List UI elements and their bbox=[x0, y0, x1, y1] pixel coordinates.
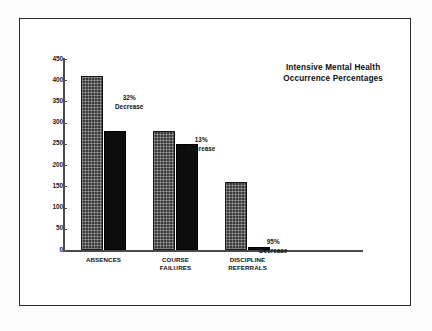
category-label: COURSEFAILURES bbox=[139, 256, 212, 272]
plot-area: 050100150200250300350400450 ABSENCESCOUR… bbox=[19, 18, 411, 306]
bar-group bbox=[225, 58, 270, 250]
y-axis-tick bbox=[63, 80, 67, 81]
y-axis-tick-label: 0 bbox=[29, 247, 63, 254]
category-label: ABSENCES bbox=[67, 256, 140, 264]
annotation-percent: 13% bbox=[187, 136, 215, 145]
y-axis-tick bbox=[63, 101, 67, 102]
annotation-percent: 95% bbox=[259, 238, 287, 247]
decrease-annotation: 32%Decrease bbox=[115, 94, 143, 111]
category-label-line: REFERRALS bbox=[211, 264, 284, 272]
y-axis-tick bbox=[63, 186, 67, 187]
chart-page: 050100150200250300350400450 ABSENCESCOUR… bbox=[0, 0, 432, 331]
category-label: DISCIPLINEREFERRALS bbox=[211, 256, 284, 272]
y-axis-tick bbox=[63, 144, 67, 145]
category-label-line: DISCIPLINE bbox=[211, 256, 284, 264]
bar-group bbox=[153, 58, 198, 250]
y-axis-tick bbox=[63, 123, 67, 124]
y-axis-tick-label: 450 bbox=[29, 56, 63, 63]
decrease-annotation: 13%Decrease bbox=[187, 136, 215, 153]
y-axis-tick-label: 400 bbox=[29, 77, 63, 84]
y-axis-tick-label: 150 bbox=[29, 183, 63, 190]
y-axis-tick-label: 200 bbox=[29, 162, 63, 169]
annotation-label: Decrease bbox=[187, 145, 215, 154]
y-axis-tick-label: 350 bbox=[29, 98, 63, 105]
bar-after bbox=[176, 144, 198, 250]
y-axis-tick-label: 50 bbox=[29, 225, 63, 232]
decrease-annotation: 95%Decrease bbox=[259, 238, 287, 255]
y-axis-tick-label: 300 bbox=[29, 119, 63, 126]
chart-title-line-1: Intensive Mental Health bbox=[283, 62, 383, 73]
chart-title-line-2: Occurrence Percentages bbox=[283, 73, 383, 84]
y-axis-tick bbox=[63, 165, 67, 166]
y-axis-line bbox=[63, 58, 65, 251]
y-axis-tick bbox=[63, 229, 67, 230]
bar-after bbox=[104, 131, 126, 250]
annotation-label: Decrease bbox=[259, 247, 287, 256]
y-axis-tick bbox=[63, 59, 67, 60]
bar-chart: 050100150200250300350400450 ABSENCESCOUR… bbox=[19, 18, 411, 306]
category-label-line: FAILURES bbox=[139, 264, 212, 272]
y-axis-tick bbox=[63, 208, 67, 209]
y-axis-tick-label: 100 bbox=[29, 204, 63, 211]
bar-before bbox=[81, 76, 103, 250]
annotation-percent: 32% bbox=[115, 94, 143, 103]
bar-group bbox=[81, 58, 126, 250]
category-label-line: COURSE bbox=[139, 256, 212, 264]
bar-before bbox=[153, 131, 175, 250]
x-axis-line bbox=[63, 250, 363, 252]
annotation-label: Decrease bbox=[115, 103, 143, 112]
y-axis-tick-label: 250 bbox=[29, 140, 63, 147]
y-axis-tick bbox=[63, 250, 67, 251]
bar-before bbox=[225, 182, 247, 250]
chart-title: Intensive Mental Health Occurrence Perce… bbox=[283, 62, 383, 84]
category-label-line: ABSENCES bbox=[67, 256, 140, 264]
